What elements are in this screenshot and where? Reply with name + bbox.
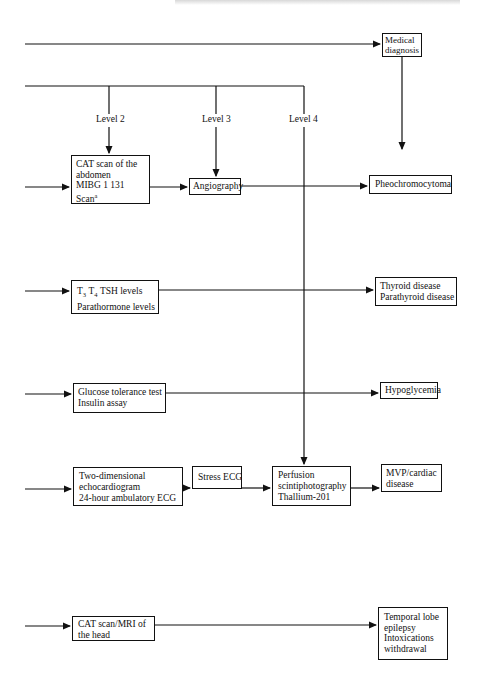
level-3-label: Level 3 xyxy=(202,114,231,124)
level-2-label: Level 2 xyxy=(96,114,125,124)
node-text: Temporal lobe xyxy=(384,612,442,623)
node-text: Thyroid disease xyxy=(380,281,452,292)
node-text: Angiography xyxy=(193,181,237,192)
connector-lines xyxy=(0,0,479,691)
node-hypoglycemia: Hypoglycemia xyxy=(380,382,438,399)
node-text: CAT scan/MRI of xyxy=(78,619,149,630)
t4-sub: 4 xyxy=(94,291,97,298)
node-text: epilepsy xyxy=(384,623,442,634)
node-text: echocardiogram xyxy=(79,482,177,493)
node-text: Parathormone levels xyxy=(77,301,153,313)
node-medical-diagnosis: Medical diagnosis xyxy=(382,33,422,57)
node-text: 24-hour ambulatory ECG xyxy=(79,493,177,504)
node-text-t3-t4-tsh: T3 T4 TSH levels xyxy=(77,285,153,301)
footnote-marker: a xyxy=(94,192,97,199)
node-cat-scan-abdomen: CAT scan of the abdomen MIBG 1 131 Scana xyxy=(71,155,150,204)
node-glucose-tests: Glucose tolerance test Insulin assay xyxy=(73,383,166,413)
node-text: MIBG 1 131 xyxy=(76,180,145,191)
node-text: abdomen xyxy=(76,170,145,181)
node-text: Perfusion xyxy=(278,470,345,481)
t3-sub: 3 xyxy=(83,291,86,298)
node-text: Stress ECG xyxy=(198,472,236,483)
node-head-scan: CAT scan/MRI of the head xyxy=(72,616,155,641)
node-text: Glucose tolerance test xyxy=(78,387,161,398)
node-thyroid-tests: T3 T4 TSH levels Parathormone levels xyxy=(71,280,159,314)
level-4-label: Level 4 xyxy=(289,114,318,124)
node-text: Scana xyxy=(76,191,145,205)
node-text: scintiphotography xyxy=(278,481,345,492)
node-text: Thallium-201 xyxy=(278,492,345,503)
tsh: TSH levels xyxy=(100,286,142,296)
node-text: Two-dimensional xyxy=(79,471,177,482)
node-text: MVP/cardiac xyxy=(386,468,437,479)
node-text-scan: Scan xyxy=(76,194,94,204)
node-echocardiogram-tests: Two-dimensional echocardiogram 24-hour a… xyxy=(73,467,183,506)
node-text: Parathyroid disease xyxy=(380,292,452,303)
node-text: the head xyxy=(78,630,149,641)
node-text: Medical xyxy=(385,35,419,45)
node-text: withdrawal xyxy=(384,644,442,655)
node-thyroid-outcome: Thyroid disease Parathyroid disease xyxy=(375,277,457,306)
node-text: Insulin assay xyxy=(78,398,161,409)
node-text: disease xyxy=(386,479,437,490)
node-text: Pheochromocytoma xyxy=(375,179,446,190)
node-text: CAT scan of the xyxy=(76,159,145,170)
node-angiography: Angiography xyxy=(189,178,241,195)
node-text: Intoxications xyxy=(384,633,442,644)
node-stress-ecg: Stress ECG xyxy=(192,466,242,489)
node-text: Hypoglycemia xyxy=(385,385,433,396)
node-text: diagnosis xyxy=(385,45,419,55)
node-temporal-lobe-outcome: Temporal lobe epilepsy Intoxications wit… xyxy=(378,607,448,660)
node-pheochromocytoma: Pheochromocytoma xyxy=(369,175,452,194)
node-perfusion-scintiphotography: Perfusion scintiphotography Thallium-201 xyxy=(272,466,351,506)
node-mvp-cardiac-disease: MVP/cardiac disease xyxy=(381,464,442,492)
